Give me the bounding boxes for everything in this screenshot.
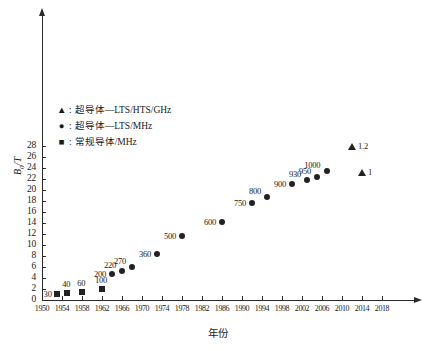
data-point-label: 30 <box>44 290 52 299</box>
legend-label: 超导体—LTS/HTS/GHz <box>75 106 172 116</box>
x-axis-line <box>42 300 418 301</box>
x-axis-tick <box>82 296 83 300</box>
y-axis-tick-label: 22 <box>14 174 36 184</box>
y-axis-tick-label: 26 <box>14 152 36 162</box>
x-axis-tick <box>342 296 343 300</box>
data-point-circle <box>249 200 255 206</box>
data-point-label: 500 <box>164 232 176 241</box>
magnet-field-vs-year-chart: B0/T 年份 0246810121416182022242628 195019… <box>0 0 428 351</box>
x-axis-tick <box>162 296 163 300</box>
y-axis-tick-label: 24 <box>14 163 36 173</box>
legend-label: 超导体—LTS/MHz <box>75 122 153 132</box>
y-axis-line <box>42 16 43 301</box>
legend-label: 常规导体/MHz <box>75 138 137 148</box>
y-axis-tick-label: 4 <box>14 273 36 283</box>
data-point-label: 900 <box>274 180 286 189</box>
y-axis-tick <box>42 168 46 169</box>
data-point-circle <box>289 181 295 187</box>
circle-marker-icon: ● <box>57 122 66 132</box>
data-point-circle <box>119 268 125 274</box>
x-axis-tick <box>142 296 143 300</box>
y-axis-tick <box>42 157 46 158</box>
y-axis-tick <box>42 278 46 279</box>
y-axis-tick-label: 12 <box>14 229 36 239</box>
data-point-circle <box>264 194 270 200</box>
y-axis-tick-label: 28 <box>14 141 36 151</box>
legend-item-square: ■:常规导体/MHz <box>57 138 137 148</box>
y-axis-tick-label: 8 <box>14 251 36 261</box>
y-axis-tick <box>42 212 46 213</box>
y-axis-tick <box>42 245 46 246</box>
data-point-label: 270 <box>114 257 126 266</box>
x-axis-tick <box>382 296 383 300</box>
data-point-circle <box>324 168 330 174</box>
y-axis-tick-label: 16 <box>14 207 36 217</box>
y-axis-tick-label: 18 <box>14 196 36 206</box>
data-point-triangle <box>358 169 366 176</box>
y-axis-tick <box>42 267 46 268</box>
x-axis-tick <box>262 296 263 300</box>
y-axis-tick <box>42 190 46 191</box>
data-point-label: 1000 <box>304 161 320 170</box>
data-point-label: 40 <box>62 280 70 289</box>
data-point-label: 60 <box>77 279 85 288</box>
legend-separator: : <box>69 138 72 148</box>
x-axis-tick <box>102 296 103 300</box>
data-point-label: 1 <box>368 168 372 177</box>
x-axis-tick <box>302 296 303 300</box>
y-axis-tick <box>42 256 46 257</box>
x-axis-title: 年份 <box>208 325 228 340</box>
data-point-triangle <box>348 143 356 150</box>
y-axis-arrow-icon <box>39 8 45 16</box>
data-point-label: 600 <box>204 218 216 227</box>
data-point-label: 750 <box>234 199 246 208</box>
data-point-circle <box>179 233 185 239</box>
y-axis-tick-label: 14 <box>14 218 36 228</box>
x-axis-tick <box>62 296 63 300</box>
y-axis-tick <box>42 234 46 235</box>
y-axis-tick-label: 2 <box>14 284 36 294</box>
x-axis-tick <box>362 296 363 300</box>
y-axis-tick-label: 6 <box>14 262 36 272</box>
y-axis-tick-label: 10 <box>14 240 36 250</box>
data-point-label: 200 <box>94 270 106 279</box>
data-point-square <box>54 291 60 297</box>
x-axis-arrow-icon <box>414 297 422 303</box>
data-point-square <box>79 289 85 295</box>
data-point-circle <box>154 251 160 257</box>
triangle-marker-icon: ▲ <box>57 106 66 116</box>
x-axis-tick-label: 2018 <box>369 305 395 313</box>
data-point-circle <box>314 174 320 180</box>
x-axis-tick <box>202 296 203 300</box>
chart-legend: ▲:超导体—LTS/HTS/GHz●:超导体—LTS/MHz■:常规导体/MHz <box>57 106 247 146</box>
x-axis-tick <box>182 296 183 300</box>
data-point-circle <box>304 177 310 183</box>
data-point-label: 1.2 <box>358 142 368 151</box>
y-axis-tick-label: 20 <box>14 185 36 195</box>
x-axis-tick <box>322 296 323 300</box>
data-point-label: 800 <box>249 187 261 196</box>
y-axis-tick <box>42 146 46 147</box>
x-axis-tick <box>242 296 243 300</box>
legend-separator: : <box>69 122 72 132</box>
data-point-square <box>99 286 105 292</box>
data-point-circle <box>129 264 135 270</box>
square-marker-icon: ■ <box>57 138 66 148</box>
x-axis-tick <box>222 296 223 300</box>
data-point-circle <box>109 271 115 277</box>
y-axis-tick <box>42 201 46 202</box>
y-axis-tick <box>42 223 46 224</box>
x-axis-tick <box>282 296 283 300</box>
data-point-label: 360 <box>139 250 151 259</box>
legend-item-triangle: ▲:超导体—LTS/HTS/GHz <box>57 106 171 116</box>
y-axis-tick-label: 0 <box>14 295 36 305</box>
data-point-square <box>64 290 70 296</box>
y-axis-tick <box>42 179 46 180</box>
data-point-circle <box>219 219 225 225</box>
x-axis-tick <box>122 296 123 300</box>
legend-item-circle: ●:超导体—LTS/MHz <box>57 122 152 132</box>
legend-separator: : <box>69 106 72 116</box>
